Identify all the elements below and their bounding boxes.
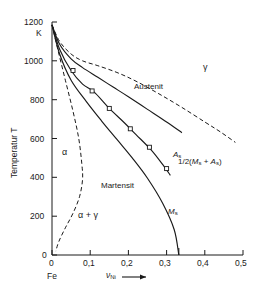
- data-point: [107, 106, 111, 110]
- x-axis-title: νNi: [106, 271, 116, 280]
- label-ms-sub: s: [175, 210, 178, 216]
- x-tick-0-3: 0,3: [159, 259, 171, 268]
- x-axis-arrow: [122, 275, 146, 280]
- x-axis-title-subscript: Ni: [110, 274, 116, 280]
- y-tick-0: 0: [42, 251, 47, 260]
- data-point: [128, 127, 132, 131]
- data-point: [71, 69, 75, 73]
- y-tick-200: 200: [30, 212, 44, 221]
- mid-plus: +: [201, 157, 210, 166]
- y-tick-800: 800: [30, 96, 44, 105]
- x-tick-0: 0: [49, 259, 54, 268]
- label-ms-main: M: [168, 207, 175, 216]
- mid-suffix: ): [219, 157, 222, 166]
- phase-diagram-figure: 1200 1000 800 600 400 200 0 K Temperatur…: [0, 0, 263, 295]
- label-austenit: Austenit: [134, 83, 163, 91]
- x-axis-ticks: [52, 248, 243, 255]
- x-tick-0-2: 0,2: [121, 259, 133, 268]
- label-mid-ms-as: 1/2(Ms + As): [178, 158, 222, 166]
- x-tick-0-4: 0,4: [197, 259, 209, 268]
- y-axis-ticks: [52, 22, 57, 255]
- y-axis-unit-kelvin: K: [36, 29, 42, 38]
- mid-prefix: 1/2(: [178, 157, 192, 166]
- y-tick-1200: 1200: [24, 18, 43, 27]
- y-tick-400: 400: [30, 173, 44, 182]
- curve-mid-ms-as: [52, 25, 170, 175]
- x-tick-0-5: 0,5: [235, 259, 247, 268]
- x-axis-origin-label-fe: Fe: [47, 272, 57, 281]
- axis-lines: [52, 22, 243, 255]
- label-alpha: α: [62, 148, 67, 157]
- curve-layer: [52, 25, 235, 255]
- label-ms: Ms: [168, 208, 178, 216]
- data-point: [90, 89, 94, 93]
- label-alpha-gamma: α + γ: [78, 211, 98, 220]
- label-gamma: γ: [203, 63, 208, 72]
- y-tick-1000: 1000: [24, 57, 43, 66]
- y-axis-title: Temperatur T: [10, 128, 19, 178]
- label-martensit: Martensit: [101, 182, 134, 190]
- y-tick-600: 600: [30, 135, 44, 144]
- data-point: [165, 167, 169, 171]
- x-tick-0-1: 0,1: [83, 259, 95, 268]
- data-point: [147, 145, 151, 149]
- chart-canvas: [0, 0, 263, 295]
